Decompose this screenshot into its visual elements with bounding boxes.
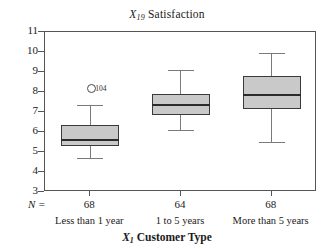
whisker-cap-upper: [77, 105, 103, 106]
median-line: [243, 94, 301, 96]
box-iqr: [61, 125, 119, 146]
y-axis-tick-label: 7: [14, 105, 38, 116]
chart-title-variable: X: [129, 8, 136, 20]
y-axis-tick-label: 8: [14, 85, 38, 96]
y-axis-tick-mark: [38, 191, 44, 192]
median-line: [61, 139, 119, 141]
x-axis-title-text: Customer Type: [137, 231, 212, 243]
x-axis-category-label: More than 5 years: [211, 215, 331, 226]
sample-size-value: 68: [59, 198, 119, 210]
y-axis-tick-label: 4: [14, 165, 38, 176]
x-axis-title-variable: X: [122, 231, 130, 243]
outlier-label: 104: [95, 85, 106, 93]
boxplot-figure: X19 Satisfaction 11109876543 104 68Less …: [0, 0, 334, 249]
whisker-lower: [271, 109, 272, 142]
x-axis-title-subscript: 1: [130, 236, 134, 245]
y-axis-tick-label: 10: [14, 45, 38, 56]
whisker-cap-lower: [77, 158, 103, 159]
whisker-lower: [180, 115, 181, 130]
box-iqr: [243, 76, 301, 109]
plot-area: 104: [44, 31, 316, 191]
whisker-cap-lower: [259, 142, 285, 143]
box-plot-group: [136, 32, 227, 192]
y-axis-tick-label: 5: [14, 145, 38, 156]
x-axis-tick-mark: [89, 191, 90, 196]
whisker-upper: [90, 105, 91, 125]
whisker-cap-lower: [168, 130, 194, 131]
whisker-lower: [90, 146, 91, 158]
sample-size-value: 64: [150, 198, 210, 210]
whisker-upper: [180, 70, 181, 94]
whisker-cap-upper: [168, 70, 194, 71]
y-axis-tick-label: 9: [14, 65, 38, 76]
n-equals-label: N =: [28, 198, 46, 210]
chart-title-subscript: 19: [137, 13, 145, 22]
whisker-upper: [271, 53, 272, 76]
box-plot-group: 104: [45, 32, 136, 192]
box-plot-group: [226, 32, 317, 192]
chart-title-text: Satisfaction: [148, 8, 205, 20]
chart-title: X19 Satisfaction: [0, 8, 334, 22]
median-line: [152, 104, 210, 106]
sample-size-value: 68: [241, 198, 301, 210]
y-axis-tick-label: 11: [14, 25, 38, 36]
x-axis-title: X1 Customer Type: [0, 231, 334, 245]
whisker-cap-upper: [259, 53, 285, 54]
y-axis-tick-label: 6: [14, 125, 38, 136]
x-axis-tick-mark: [180, 191, 181, 196]
y-axis-tick-label: 3: [14, 185, 38, 196]
x-axis-tick-mark: [271, 191, 272, 196]
